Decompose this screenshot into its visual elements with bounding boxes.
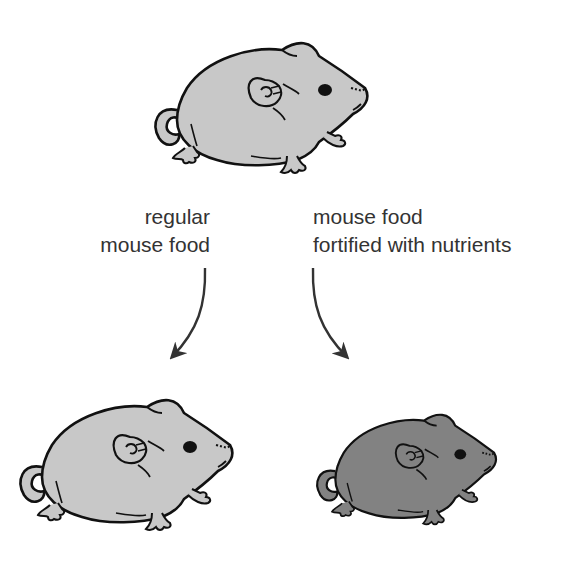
arrow-to-regular-food-mouse (172, 268, 205, 357)
arrow-to-fortified-food-mouse (313, 268, 347, 357)
diagram-canvas: regular mouse food mouse food fortified … (0, 0, 584, 581)
regular-food-mouse-icon (12, 385, 237, 545)
fortified-food-mouse-icon (310, 402, 500, 537)
